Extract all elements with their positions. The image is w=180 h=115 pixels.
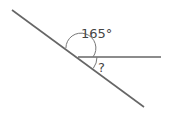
diagonal-line [12, 10, 144, 107]
angle-diagram: 165° ? [0, 0, 180, 115]
unknown-angle-label: ? [98, 61, 105, 74]
diagram-lines [0, 0, 180, 115]
angle-label-165: 165° [81, 27, 112, 40]
angle-arc-unknown [93, 57, 97, 68]
